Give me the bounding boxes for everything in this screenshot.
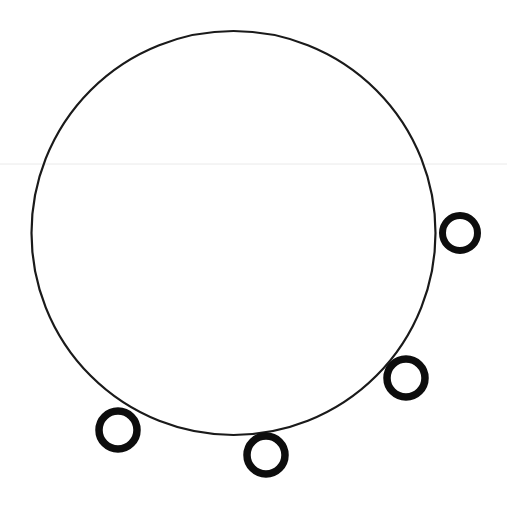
canvas-background xyxy=(0,0,507,505)
circle-diagram-canvas xyxy=(0,0,507,505)
figure-root: Hand-drawn circle with four small circle… xyxy=(0,0,507,505)
